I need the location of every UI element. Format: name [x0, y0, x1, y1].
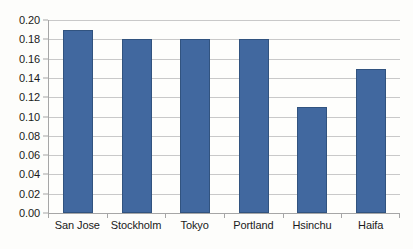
- x-axis-tickmark: [341, 213, 342, 218]
- bar: [63, 30, 93, 213]
- bar-chart: 0.200.180.160.140.120.100.080.060.040.02…: [0, 0, 413, 249]
- bar-slot: [283, 20, 342, 213]
- plot-area: [48, 20, 400, 213]
- bar: [356, 69, 386, 213]
- bar: [122, 39, 152, 213]
- x-axis-tick-label: Haifa: [341, 219, 400, 231]
- x-axis-tick-label: San Jose: [48, 219, 107, 231]
- bar-slot: [166, 20, 225, 213]
- y-axis-tick-label: 0.08: [19, 130, 40, 142]
- y-axis-tick-label: 0.20: [19, 14, 40, 26]
- y-axis-tick-label: 0.14: [19, 72, 40, 84]
- x-axis-tickmark: [107, 213, 108, 218]
- bar-series: [49, 20, 400, 213]
- bar-slot: [225, 20, 284, 213]
- bar: [180, 39, 210, 213]
- x-axis-tickmark: [283, 213, 284, 218]
- y-axis-tick-label: 0.16: [19, 53, 40, 65]
- x-axis-labels: San JoseStockholmTokyoPortlandHsinchuHai…: [48, 219, 400, 231]
- x-axis-tickmark: [224, 213, 225, 218]
- y-axis-tick-label: 0.10: [19, 111, 40, 123]
- y-axis-tick-label: 0.06: [19, 149, 40, 161]
- x-axis-tickmark: [48, 213, 49, 218]
- x-axis-tick-label: Stockholm: [107, 219, 166, 231]
- x-axis-tick-label: Tokyo: [165, 219, 224, 231]
- y-axis: 0.200.180.160.140.120.100.080.060.040.02…: [0, 20, 48, 213]
- bar: [297, 107, 327, 213]
- x-axis-tick-label: Portland: [224, 219, 283, 231]
- bar-slot: [108, 20, 167, 213]
- x-axis-tickmark: [399, 213, 400, 218]
- bar: [239, 39, 269, 213]
- y-axis-tick-label: 0.18: [19, 33, 40, 45]
- x-axis-tickmarks: [48, 213, 400, 218]
- x-axis-tick-label: Hsinchu: [283, 219, 342, 231]
- y-axis-tick-label: 0.00: [19, 207, 40, 219]
- bar-slot: [342, 20, 401, 213]
- y-axis-tick-label: 0.04: [19, 168, 40, 180]
- y-axis-tick-label: 0.12: [19, 91, 40, 103]
- x-axis-tickmark: [165, 213, 166, 218]
- bar-slot: [49, 20, 108, 213]
- y-axis-tick-label: 0.02: [19, 188, 40, 200]
- plot-area-wrapper: [48, 20, 400, 213]
